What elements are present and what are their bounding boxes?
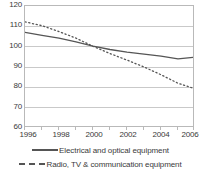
y-tick-label: 110 <box>0 21 22 29</box>
y-tick-label: 70 <box>0 103 22 111</box>
legend-label: Radio, TV & communication equipment <box>45 160 181 169</box>
y-tick-label: 100 <box>0 42 22 50</box>
legend-item-radio-tv-and-communication-equipment: Radio, TV & communication equipment <box>0 157 201 171</box>
x-tick-label: 2006 <box>182 130 199 139</box>
plot-area <box>24 5 194 127</box>
legend-solid-line-icon <box>32 145 58 155</box>
legend: Electrical and optical equipment Radio, … <box>0 143 201 172</box>
line-chart: 120 110 100 90 80 70 60 1996 1998 <box>0 0 201 172</box>
legend-label: Electrical and optical equipment <box>58 146 169 155</box>
series-line-radio-tv-and-communication-equipment <box>25 22 194 89</box>
series-layer <box>25 6 194 127</box>
y-tick-label: 90 <box>0 62 22 70</box>
x-tick-label: 2004 <box>153 130 170 139</box>
x-tick-label: 2000 <box>86 130 103 139</box>
y-tick-label: 120 <box>0 1 22 9</box>
x-tick-label: 2002 <box>120 130 137 139</box>
legend-item-electrical-and-optical-equipment: Electrical and optical equipment <box>0 143 201 157</box>
legend-dotted-line-icon <box>19 159 45 169</box>
x-axis: 1996 1998 2000 2002 2004 2006 <box>24 130 194 142</box>
x-tick-label: 1998 <box>53 130 70 139</box>
x-tick-label: 1996 <box>20 130 37 139</box>
y-tick-label: 80 <box>0 82 22 90</box>
series-line-electrical-and-optical-equipment <box>25 32 194 58</box>
